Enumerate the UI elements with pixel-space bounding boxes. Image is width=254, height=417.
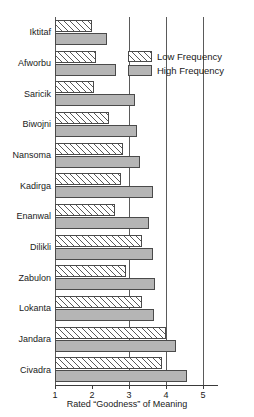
bar-kadirga-low: [55, 173, 121, 185]
bar-biwojni-low: [55, 112, 109, 124]
y-axis-label-kadirga: Kadirga: [0, 181, 51, 191]
y-axis-label-iktitaf: Iktitaf: [0, 27, 51, 37]
legend-swatch-low-frequency-icon: [128, 51, 152, 62]
x-tick-4: [166, 385, 167, 389]
bar-afworbu-low: [55, 51, 96, 63]
legend-item-low-frequency: Low Frequency: [128, 51, 222, 62]
bar-nansoma-low: [55, 143, 123, 155]
bar-lokanta-high: [55, 309, 154, 321]
bar-zabulon-low: [55, 265, 126, 277]
bar-civadra-high: [55, 370, 187, 382]
y-axis-label-civadra: Civadra: [0, 365, 51, 375]
y-axis-label-enanwal: Enanwal: [0, 211, 51, 221]
bar-enanwal-high: [55, 217, 149, 229]
y-axis-label-jandara: Jandara: [0, 334, 51, 344]
bar-saricik-low: [55, 81, 94, 93]
x-tick-3: [129, 385, 130, 389]
bar-kadirga-high: [55, 186, 153, 198]
bar-dilikli-high: [55, 248, 153, 260]
bar-civadra-low: [55, 357, 162, 369]
legend-item-high-frequency: High Frequency: [128, 65, 224, 76]
bar-biwojni-high: [55, 125, 137, 137]
legend-swatch-high-frequency-icon: [128, 65, 152, 76]
x-tick-2: [92, 385, 93, 389]
bar-enanwal-low: [55, 204, 115, 216]
bar-jandara-high: [55, 340, 176, 352]
x-axis-line: [55, 385, 218, 386]
bar-zabulon-high: [55, 278, 155, 290]
bar-nansoma-high: [55, 156, 140, 168]
bar-iktitaf-low: [55, 20, 92, 32]
legend-label-high-frequency: High Frequency: [157, 66, 224, 76]
bar-chart: 12345IktitafAfworbuSaricikBiwojniNansoma…: [0, 0, 254, 417]
y-axis-label-dilikli: Dilikli: [0, 242, 51, 252]
bar-lokanta-low: [55, 296, 142, 308]
plot-area: 12345IktitafAfworbuSaricikBiwojniNansoma…: [0, 0, 254, 417]
y-axis-label-lokanta: Lokanta: [0, 303, 51, 313]
x-tick-5: [203, 385, 204, 389]
x-tick-1: [55, 385, 56, 389]
bar-afworbu-high: [55, 64, 116, 76]
y-axis-label-afworbu: Afworbu: [0, 58, 51, 68]
bar-dilikli-low: [55, 235, 142, 247]
y-axis-label-saricik: Saricik: [0, 89, 51, 99]
y-axis-label-nansoma: Nansoma: [0, 150, 51, 160]
bar-iktitaf-high: [55, 33, 107, 45]
x-axis-title: Rated “Goodness” of Meaning: [0, 399, 254, 409]
y-axis-label-zabulon: Zabulon: [0, 273, 51, 283]
bar-jandara-low: [55, 327, 166, 339]
bar-saricik-high: [55, 94, 135, 106]
y-axis-label-biwojni: Biwojni: [0, 119, 51, 129]
legend-label-low-frequency: Low Frequency: [157, 52, 222, 62]
